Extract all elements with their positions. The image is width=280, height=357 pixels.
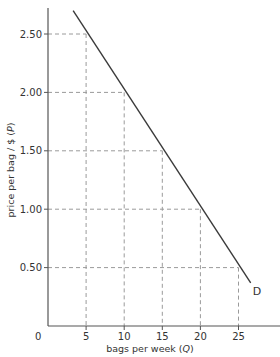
x-tick-label: 5 (83, 331, 89, 342)
y-tick-label: 2.50 (20, 29, 42, 40)
y-tick-label: 1.50 (20, 145, 42, 156)
axes (48, 8, 280, 326)
y-tick-label: 2.00 (20, 87, 42, 98)
x-tick-label: 25 (232, 331, 245, 342)
y-tick-label: 0.50 (20, 262, 42, 273)
curve-label-d: D (253, 285, 261, 298)
origin-label: 0 (35, 331, 41, 342)
x-tick-label: 15 (156, 331, 169, 342)
y-tick-label: 1.00 (20, 204, 42, 215)
demand-chart: 0.501.001.502.002.50510152025 0 bags per… (0, 0, 280, 357)
x-tick-label: 10 (118, 331, 131, 342)
axis-ticks: 0.501.001.502.002.50510152025 (20, 29, 245, 343)
x-axis-label: bags per week (Q) (106, 343, 194, 354)
dashed-guide-lines (48, 34, 239, 326)
y-axis-label: price per bag / $ (P) (5, 123, 16, 218)
x-tick-label: 20 (194, 331, 207, 342)
